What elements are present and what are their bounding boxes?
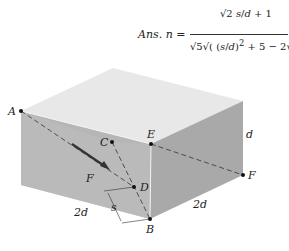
- label-offset-s: s: [111, 201, 117, 214]
- label-force-F: F: [85, 172, 94, 185]
- fraction-bar: [190, 34, 288, 35]
- label-C: C: [100, 136, 109, 149]
- point-B: [148, 217, 152, 221]
- label-D: D: [139, 181, 149, 194]
- point-A: [19, 109, 23, 113]
- point-F: [241, 173, 245, 177]
- point-E: [149, 142, 153, 146]
- answer-equation: Ans. n = √2 s/d + 1 √5√( (s/d)2 + 5 − 2√…: [138, 6, 288, 66]
- label-E: E: [146, 128, 155, 141]
- label-height-d: d: [246, 128, 253, 141]
- equation-numerator: √2 s/d + 1: [220, 8, 272, 19]
- label-F-point: F: [247, 169, 256, 182]
- point-D: [132, 185, 136, 189]
- label-A: A: [7, 105, 16, 118]
- equation-denominator: √5√( (s/d)2 + 5 − 2√2 s/d): [190, 38, 289, 52]
- equation-lhs: Ans. n =: [138, 28, 185, 41]
- label-depth-2d: 2d: [73, 206, 88, 219]
- point-C: [110, 140, 114, 144]
- label-B: B: [145, 223, 154, 236]
- label-width-2d: 2d: [192, 198, 207, 211]
